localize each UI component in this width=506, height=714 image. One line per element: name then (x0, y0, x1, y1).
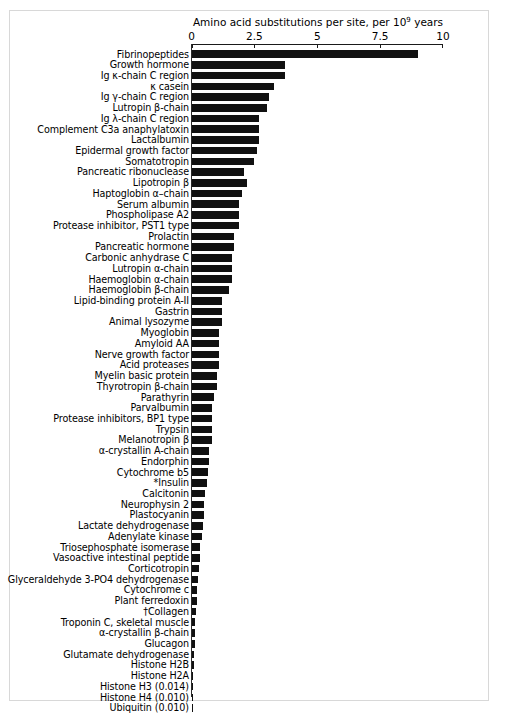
bar (192, 533, 202, 541)
bar-track (192, 275, 232, 283)
bar-track (192, 372, 217, 380)
bar-track (192, 179, 247, 187)
bar-row: Myoglobin (0, 328, 506, 339)
bar-label: Thyrotropin β-chain (97, 381, 189, 392)
x-tick-label-10: 10 (436, 30, 449, 42)
x-tick-mark (192, 44, 193, 48)
bar-track (192, 415, 212, 423)
bar-row: Troponin C, skeletal muscle (0, 617, 506, 628)
bar-track (192, 72, 285, 80)
bar-track (192, 522, 203, 530)
bar (192, 511, 205, 519)
bar-label: Carbonic anhydrase C (85, 252, 189, 263)
bar-track (192, 50, 418, 58)
axis-title-prefix: Amino acid substitutions per site, per 1… (193, 16, 406, 28)
bar (192, 479, 207, 487)
bar-label: α-crystallin A-chain (99, 445, 189, 456)
bar-track (192, 83, 275, 91)
bar-track (192, 340, 220, 348)
bar (192, 61, 285, 69)
bar (192, 468, 208, 476)
bar-track (192, 61, 285, 69)
bar-label: Plant ferredoxin (115, 595, 189, 606)
x-tick-label-5: 5 (314, 30, 321, 42)
bar-row: Cytochrome c (0, 585, 506, 596)
bar-track (192, 233, 235, 241)
bar-label: Serum albumin (117, 199, 189, 210)
bar-row: Myelin basic protein (0, 371, 506, 382)
x-tick-label-2-5: 2.5 (246, 30, 263, 42)
bar-row: Acid proteases (0, 360, 506, 371)
bar-track (192, 168, 245, 176)
bar-track (192, 265, 232, 273)
bar-row: Melanotropin β (0, 435, 506, 446)
bar-row: Haemoglobin β-chain (0, 285, 506, 296)
bar-rows: FibrinopeptidesGrowth hormoneIg κ-chain … (0, 49, 506, 714)
bar (192, 576, 199, 584)
bar-label: Protease inhibitors, BP1 type (53, 413, 189, 424)
bar-label: Gastrin (155, 306, 189, 317)
bar-label: Histone H3 (0.014) (100, 681, 189, 692)
bar-label: Triosephosphate isomerase (60, 542, 189, 553)
bar-label: Amyloid AA (135, 338, 189, 349)
bar-row: Glutamate dehydrogenase (0, 649, 506, 660)
bar (192, 115, 260, 123)
x-tick-mark (317, 44, 318, 48)
bar-row: Somatotropin (0, 156, 506, 167)
bar-label: Haptoglobin α–chain (92, 188, 189, 199)
bar (192, 265, 232, 273)
bar-row: Histone H2B (0, 660, 506, 671)
bar-row: *Insulin (0, 478, 506, 489)
bar-track (192, 158, 255, 166)
bar-label: Myoglobin (141, 327, 189, 338)
bar-track (192, 393, 215, 401)
bar-track (192, 597, 197, 605)
bar (192, 329, 220, 337)
bar-label: Cytochrome c (124, 584, 189, 595)
bar-track (192, 458, 210, 466)
bar-track (192, 661, 194, 669)
bar-label: Histone H2A (131, 670, 189, 681)
bar-track (192, 576, 199, 584)
bar-row: Haptoglobin α–chain (0, 188, 506, 199)
bar-label: Ig λ-chain C region (101, 113, 189, 124)
bar-label: Lactate dehydrogenase (78, 520, 189, 531)
bar-label: Calcitonin (142, 488, 189, 499)
bar-label: Complement C3a anaphylatoxin (37, 124, 189, 135)
bar-row: Parvalbumin (0, 403, 506, 414)
bar-label: Lipotropin β (133, 177, 189, 188)
bar (192, 383, 217, 391)
bar-track (192, 147, 257, 155)
x-tick-mark (254, 44, 255, 48)
bar-track (192, 190, 242, 198)
bar-label: Corticotropin (128, 563, 189, 574)
bar-row: Parathyrin (0, 392, 506, 403)
bar (192, 136, 260, 144)
bar-track (192, 586, 198, 594)
bar-track (192, 211, 240, 219)
bar (192, 372, 217, 380)
bar-track (192, 533, 202, 541)
bar-track (192, 286, 230, 294)
bar-track (192, 479, 207, 487)
bar-label: Vasoactive intestinal peptide (53, 552, 189, 563)
bar-label: Cytochrome b5 (117, 467, 189, 478)
bar (192, 104, 267, 112)
bar-track (192, 543, 201, 551)
bar-label: Glyceraldehyde 3-PO4 dehydrogenase (8, 574, 189, 585)
bar-track (192, 511, 205, 519)
bar-row: Gastrin (0, 306, 506, 317)
bar-label: Ubiquitin (0.010) (110, 702, 189, 713)
bar-row: Protease inhibitor, PST1 type (0, 221, 506, 232)
bar-label: Myelin basic protein (95, 370, 189, 381)
bar (192, 254, 232, 262)
bar-label: α-crystallin β-chain (99, 627, 189, 638)
bar-row: Triosephosphate isomerase (0, 542, 506, 553)
bar (192, 404, 212, 412)
bar (192, 554, 200, 562)
bar-label: Neurophysin 2 (121, 499, 189, 510)
bar-row: Carbonic anhydrase C (0, 253, 506, 264)
bar (192, 211, 240, 219)
bar-row: Plastocyanin (0, 510, 506, 521)
bar-row: Calcitonin (0, 488, 506, 499)
